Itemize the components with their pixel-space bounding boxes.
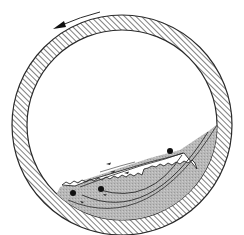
tracer-particle-middle (98, 186, 104, 192)
tracer-particle-upper (167, 148, 173, 154)
flow-arrow-1 (106, 163, 111, 166)
rotating-drum-diagram (0, 0, 244, 235)
tracer-particle-lower (70, 190, 76, 196)
